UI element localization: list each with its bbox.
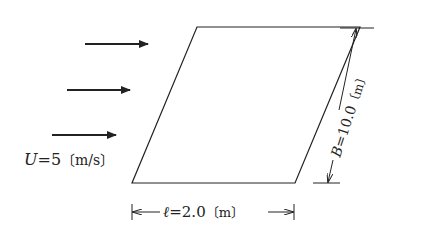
flat-plate-diagram: U=5〔m/s〕 ℓ=2.0〔m〕 B=10.0〔m〕 — [0, 0, 426, 238]
length-label: ℓ=2.0〔m〕 — [163, 203, 244, 221]
plate-parallelogram — [132, 27, 360, 183]
width-label: B=10.0〔m〕 — [327, 70, 370, 160]
flow-velocity-label: U=5〔m/s〕 — [24, 150, 114, 169]
flow-arrows — [52, 44, 148, 135]
